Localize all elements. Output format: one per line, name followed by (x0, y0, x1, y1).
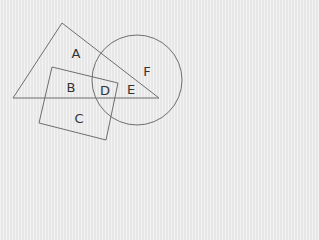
region-diagram: A B D E F C (0, 0, 196, 151)
label-d: D (100, 83, 110, 98)
label-b: B (67, 80, 76, 95)
rectangle-shape (39, 67, 118, 140)
label-e: E (127, 82, 135, 97)
triangle-shape (13, 23, 159, 98)
label-f: F (143, 64, 150, 79)
label-c: C (74, 111, 83, 126)
label-a: A (72, 46, 81, 61)
